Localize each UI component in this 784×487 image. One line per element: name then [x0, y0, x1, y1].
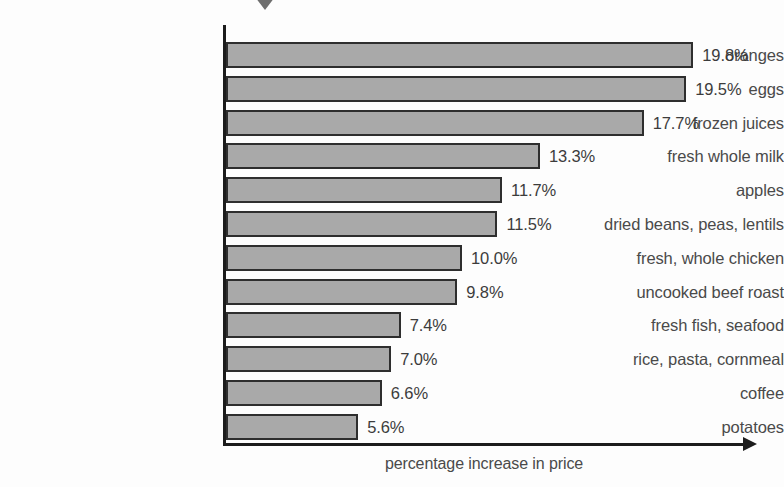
bar-value-label: 11.5% [506, 211, 551, 237]
bar-value-label: 19.8% [702, 42, 748, 68]
bar [226, 245, 462, 271]
bar-row: frozen juices17.7% [0, 110, 784, 136]
bar-row: rice, pasta, cornmeal7.0% [0, 346, 784, 372]
bar [226, 143, 540, 169]
bar [226, 414, 358, 440]
bar-value-label: 19.5% [695, 76, 741, 102]
bar [226, 346, 391, 372]
category-label: fresh whole milk [572, 143, 784, 169]
chart-page: oranges19.8%eggs19.5%frozen juices17.7%f… [0, 0, 784, 487]
category-label: rice, pasta, cornmeal [572, 346, 784, 372]
bar [226, 312, 401, 338]
bar-value-label: 13.3% [549, 143, 595, 169]
bar [226, 380, 382, 406]
category-label: coffee [572, 380, 784, 406]
bar-value-label: 7.0% [400, 346, 437, 372]
bar-row: dried beans, peas, lentils11.5% [0, 211, 784, 237]
bar [226, 211, 497, 237]
bar-row: oranges19.8% [0, 42, 784, 68]
category-label: fresh fish, seafood [572, 312, 784, 338]
bar-row: fresh whole milk13.3% [0, 143, 784, 169]
x-axis-line [223, 443, 745, 446]
category-label: potatoes [572, 414, 784, 440]
bar [226, 76, 686, 102]
bar-value-label: 7.4% [410, 312, 447, 338]
category-label: dried beans, peas, lentils [572, 211, 784, 237]
bar-value-label: 17.7% [653, 110, 699, 136]
category-label: apples [572, 177, 784, 203]
category-label: uncooked beef roast [572, 279, 784, 305]
bar-chart-plot-area: oranges19.8%eggs19.5%frozen juices17.7%f… [0, 0, 784, 487]
bar [226, 279, 457, 305]
bar-value-label: 10.0% [471, 245, 517, 271]
bar-value-label: 5.6% [367, 414, 404, 440]
bar [226, 177, 502, 203]
bar-value-label: 6.6% [391, 380, 428, 406]
category-label: fresh, whole chicken [572, 245, 784, 271]
bar-row: fresh, whole chicken10.0% [0, 245, 784, 271]
bar-value-label: 9.8% [466, 279, 503, 305]
bar-row: coffee6.6% [0, 380, 784, 406]
bar [226, 110, 644, 136]
bar [226, 42, 693, 68]
bar-row: potatoes5.6% [0, 414, 784, 440]
bar-row: apples11.7% [0, 177, 784, 203]
bar-row: fresh fish, seafood7.4% [0, 312, 784, 338]
bar-row: uncooked beef roast9.8% [0, 279, 784, 305]
x-axis-title: percentage increase in price [223, 455, 745, 473]
bar-value-label: 11.7% [511, 177, 556, 203]
bar-row: eggs19.5% [0, 76, 784, 102]
